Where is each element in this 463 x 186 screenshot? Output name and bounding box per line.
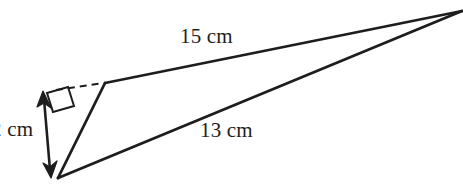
label-side-lower-13cm: 13 cm bbox=[200, 120, 253, 141]
geometry-diagram: 15 cm 13 cm 2 cm bbox=[0, 0, 463, 186]
triangle-side-left-short bbox=[58, 83, 105, 178]
triangle-side-lower-13cm bbox=[58, 11, 462, 178]
triangle-side-upper-15cm bbox=[105, 11, 462, 83]
label-height-2cm: 2 cm bbox=[0, 119, 33, 140]
height-arrow-shaft bbox=[44, 99, 50, 170]
label-side-upper-15cm: 15 cm bbox=[180, 26, 233, 47]
